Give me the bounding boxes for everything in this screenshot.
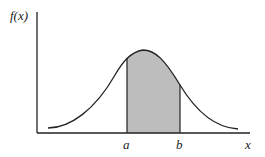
x-axis-label: x: [245, 137, 251, 153]
b-label: b: [176, 137, 183, 153]
a-label: a: [123, 137, 130, 153]
shaded-area: [127, 50, 180, 133]
y-axis-label: f(x): [10, 8, 28, 24]
density-diagram: [0, 0, 265, 157]
